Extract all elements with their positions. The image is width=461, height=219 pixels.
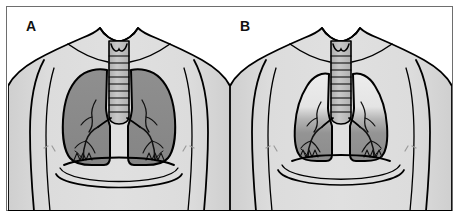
panel-b-illustration: [230, 8, 452, 211]
panel-a-label: A: [26, 18, 36, 34]
panel-b-label: B: [240, 18, 250, 34]
panel-b: B: [230, 8, 452, 211]
trachea: [109, 41, 129, 124]
panel-a: A: [8, 8, 230, 211]
panel-a-illustration: [8, 8, 230, 211]
trachea: [331, 41, 351, 124]
figure-border: A: [6, 6, 453, 211]
figure-root: A: [0, 0, 461, 219]
